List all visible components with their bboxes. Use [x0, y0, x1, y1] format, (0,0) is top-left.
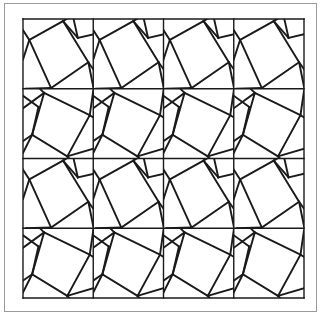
- tile: [234, 159, 304, 229]
- tile: [23, 159, 93, 229]
- radiating-segment: [102, 246, 108, 274]
- inner-quadrilateral: [100, 21, 159, 88]
- radiating-segment: [234, 179, 240, 199]
- radiating-segment: [237, 88, 262, 89]
- inner-quadrilateral: [170, 21, 229, 88]
- radiating-segment: [93, 96, 108, 107]
- radiating-segment: [234, 235, 249, 246]
- radiating-segment: [78, 174, 93, 177]
- inner-quadrilateral: [240, 21, 299, 88]
- inner-quadrilateral: [243, 93, 301, 156]
- radiating-segment: [78, 34, 93, 37]
- radiating-segment: [148, 174, 163, 177]
- radiating-segment: [164, 40, 170, 60]
- tile: [164, 159, 234, 229]
- radiating-segment: [26, 228, 51, 229]
- radiating-segment: [234, 40, 240, 60]
- radiating-segment: [93, 235, 108, 246]
- inner-quadrilateral: [102, 232, 160, 295]
- radiating-segment: [96, 88, 121, 89]
- radiating-segment: [23, 40, 29, 60]
- tile: [164, 19, 234, 89]
- radiating-segment: [289, 174, 304, 177]
- inner-quadrilateral: [32, 232, 90, 295]
- radiating-segment: [164, 96, 179, 107]
- inner-quadrilateral: [29, 161, 88, 228]
- tile: [23, 89, 93, 159]
- radiating-segment: [166, 88, 191, 89]
- tile: [23, 228, 93, 298]
- tile: [93, 19, 163, 89]
- radiating-segment: [93, 170, 99, 180]
- radiating-segment: [23, 179, 29, 199]
- radiating-segment: [148, 34, 163, 37]
- radiating-segment: [218, 174, 233, 177]
- radiating-segment: [23, 96, 38, 107]
- inner-quadrilateral: [100, 161, 159, 228]
- tile: [164, 228, 234, 298]
- tile: [234, 19, 304, 89]
- radiating-segment: [32, 246, 38, 274]
- radiating-segment: [164, 170, 170, 180]
- radiating-segment: [32, 107, 38, 135]
- radiating-segment: [23, 170, 29, 180]
- tiling-diagram: [0, 0, 321, 316]
- radiating-segment: [173, 107, 179, 135]
- tile: [93, 159, 163, 229]
- tile: [23, 19, 93, 89]
- radiating-segment: [237, 228, 262, 229]
- tile: [234, 89, 304, 159]
- radiating-segment: [23, 30, 29, 40]
- radiating-segment: [164, 179, 170, 199]
- radiating-segment: [164, 30, 170, 40]
- inner-quadrilateral: [29, 21, 88, 88]
- radiating-segment: [243, 246, 249, 274]
- radiating-segment: [102, 107, 108, 135]
- inner-quadrilateral: [170, 161, 229, 228]
- tile: [234, 228, 304, 298]
- inner-quadrilateral: [173, 232, 231, 295]
- inner-quadrilateral: [32, 93, 90, 156]
- radiating-segment: [166, 228, 191, 229]
- radiating-segment: [26, 88, 51, 89]
- radiating-segment: [243, 107, 249, 135]
- radiating-segment: [93, 179, 99, 199]
- tile: [93, 89, 163, 159]
- radiating-segment: [23, 235, 38, 246]
- radiating-segment: [289, 34, 304, 37]
- radiating-segment: [93, 40, 99, 60]
- radiating-segment: [234, 170, 240, 180]
- inner-quadrilateral: [173, 93, 231, 156]
- inner-quadrilateral: [240, 161, 299, 228]
- radiating-segment: [234, 96, 249, 107]
- inner-quadrilateral: [102, 93, 160, 156]
- inner-quadrilateral: [243, 232, 301, 295]
- radiating-segment: [234, 30, 240, 40]
- figure-root: [0, 0, 321, 316]
- radiating-segment: [218, 34, 233, 37]
- tile: [164, 89, 234, 159]
- radiating-segment: [164, 235, 179, 246]
- tile: [93, 228, 163, 298]
- radiating-segment: [96, 228, 121, 229]
- radiating-segment: [93, 30, 99, 40]
- radiating-segment: [173, 246, 179, 274]
